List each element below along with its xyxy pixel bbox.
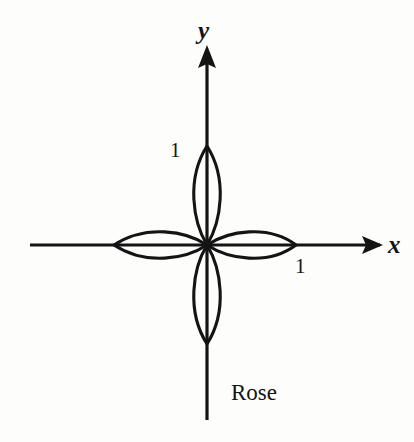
- origin-point: [203, 241, 210, 248]
- rose-curve-figure: y x 1 1 Rose: [0, 0, 414, 442]
- rose-curve-plot: [0, 0, 414, 442]
- figure-caption: Rose: [231, 381, 277, 404]
- x-axis-label: x: [388, 232, 401, 257]
- x-axis-tick-label-1: 1: [295, 256, 306, 277]
- y-axis-tick-label-1: 1: [170, 140, 181, 161]
- y-axis-label: y: [198, 18, 209, 43]
